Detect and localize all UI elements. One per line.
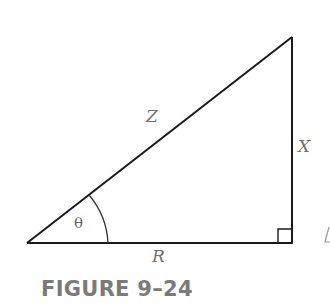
opposite-side-label: X: [298, 138, 310, 155]
hypotenuse-line: [27, 37, 292, 243]
figure-9-24: Z X R θ FIGURE 9–24: [0, 0, 330, 303]
hypotenuse-label: Z: [146, 108, 158, 125]
right-angle-marker-icon: [278, 229, 292, 243]
angle-theta-label: θ: [74, 216, 83, 231]
right-triangle-diagram: [0, 0, 330, 303]
adjacent-figure-fragment: [323, 226, 330, 244]
adjacent-side-label: R: [152, 248, 165, 265]
figure-caption: FIGURE 9–24: [41, 279, 193, 300]
angle-arc-icon: [89, 195, 108, 243]
